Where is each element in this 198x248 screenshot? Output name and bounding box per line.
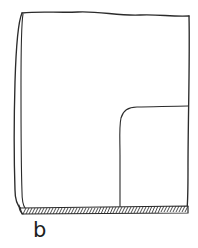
figure-illustration-b: b — [0, 0, 198, 248]
line-drawing-canvas — [0, 0, 198, 248]
artifact-body-fill — [19, 12, 189, 210]
